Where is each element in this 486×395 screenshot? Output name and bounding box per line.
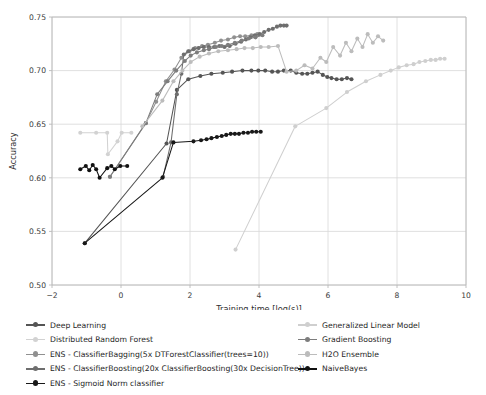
series-marker — [209, 72, 213, 76]
series-marker — [376, 34, 380, 38]
data-series — [108, 33, 265, 179]
series-marker — [219, 39, 223, 43]
series-marker — [238, 34, 242, 38]
series-marker — [214, 45, 218, 49]
series-marker — [224, 133, 228, 137]
series-marker — [371, 41, 375, 45]
series-marker — [160, 99, 164, 103]
x-axis-tick-labels: −20246810 — [46, 291, 471, 300]
legend-entry[interactable]: ENS - ClassifierBoosting(20x ClassifierB… — [26, 362, 305, 376]
series-marker — [199, 138, 203, 142]
series-marker — [171, 140, 175, 144]
legend-entry[interactable]: H2O Ensemble — [298, 347, 420, 361]
legend-entry[interactable]: Generalized Linear Model — [298, 318, 420, 332]
series-marker — [186, 49, 190, 53]
y-tick-label: 0.70 — [29, 66, 46, 75]
series-marker — [285, 70, 289, 74]
legend-column-right: Generalized Linear ModelGradient Boostin… — [298, 318, 420, 376]
x-axis-title: Training time [log(s)] — [215, 304, 302, 310]
series-marker — [230, 70, 234, 74]
y-tick-label: 0.75 — [29, 13, 46, 22]
series-marker — [160, 176, 164, 180]
legend-entry[interactable]: ENS - ClassifierBagging(5x DTForestClass… — [26, 347, 305, 361]
legend-marker-icon — [298, 363, 317, 375]
y-tick-label: 0.65 — [29, 120, 46, 129]
series-marker — [251, 46, 255, 50]
series-marker — [294, 69, 298, 73]
data-series-group — [78, 24, 446, 252]
series-marker — [105, 166, 109, 170]
series-marker — [171, 79, 175, 83]
series-marker — [91, 163, 95, 167]
data-series — [140, 32, 385, 128]
series-marker — [324, 60, 328, 64]
series-marker — [270, 70, 274, 74]
series-marker — [220, 44, 224, 48]
series-marker — [108, 175, 112, 179]
series-marker — [109, 164, 113, 168]
series-marker — [305, 72, 309, 76]
legend-marker-icon — [26, 363, 45, 375]
legend-entry[interactable]: Gradient Boosting — [298, 333, 420, 347]
series-marker — [267, 28, 271, 32]
series-marker — [226, 48, 230, 52]
series-marker — [254, 35, 258, 39]
legend-label: Gradient Boosting — [322, 334, 392, 345]
series-marker — [310, 66, 314, 70]
series-marker — [215, 135, 219, 139]
series-marker — [349, 49, 353, 53]
series-marker — [397, 65, 401, 69]
series-marker — [98, 176, 102, 180]
series-marker — [166, 79, 170, 83]
series-marker — [300, 72, 304, 76]
series-marker — [389, 69, 393, 73]
legend-label: Deep Learning — [50, 320, 106, 331]
series-marker — [276, 70, 280, 74]
series-marker — [325, 75, 329, 79]
series-marker — [220, 134, 224, 138]
series-marker — [276, 44, 280, 48]
series-marker — [242, 46, 246, 50]
series-marker — [293, 124, 297, 128]
legend-entry[interactable]: Deep Learning — [26, 318, 305, 332]
legend-entry[interactable]: NaiveBayes — [298, 362, 420, 376]
x-tick-label: 2 — [188, 291, 193, 300]
series-marker — [116, 139, 120, 143]
series-marker — [195, 50, 199, 54]
series-line — [142, 34, 383, 126]
series-marker — [434, 58, 438, 62]
series-marker — [209, 136, 213, 140]
series-line — [85, 132, 261, 243]
series-line — [110, 35, 262, 177]
series-marker — [175, 92, 179, 96]
series-marker — [267, 45, 271, 49]
series-marker — [316, 70, 320, 74]
series-marker — [263, 69, 267, 73]
legend-entry[interactable]: ENS - Sigmoid Norm classifier — [26, 376, 305, 390]
series-marker — [338, 54, 342, 58]
series-marker — [412, 62, 416, 66]
series-line — [85, 71, 352, 244]
data-series — [233, 57, 446, 252]
series-marker — [259, 45, 263, 49]
series-marker — [164, 141, 168, 145]
series-marker — [78, 131, 82, 135]
series-marker — [189, 54, 193, 58]
series-marker — [331, 45, 335, 49]
series-marker — [221, 71, 225, 75]
series-marker — [344, 41, 348, 45]
legend-label: NaiveBayes — [322, 363, 367, 374]
legend-marker-icon — [26, 319, 45, 331]
series-marker — [226, 37, 230, 41]
legend-entry[interactable]: Distributed Random Forest — [26, 333, 305, 347]
series-marker — [205, 137, 209, 141]
series-marker — [120, 131, 124, 135]
series-marker — [213, 41, 217, 45]
series-marker — [247, 36, 251, 40]
series-marker — [321, 73, 325, 77]
series-marker — [191, 139, 195, 143]
series-marker — [324, 106, 328, 110]
series-marker — [140, 124, 144, 128]
x-tick-label: 4 — [257, 291, 262, 300]
grid-lines — [52, 17, 466, 285]
